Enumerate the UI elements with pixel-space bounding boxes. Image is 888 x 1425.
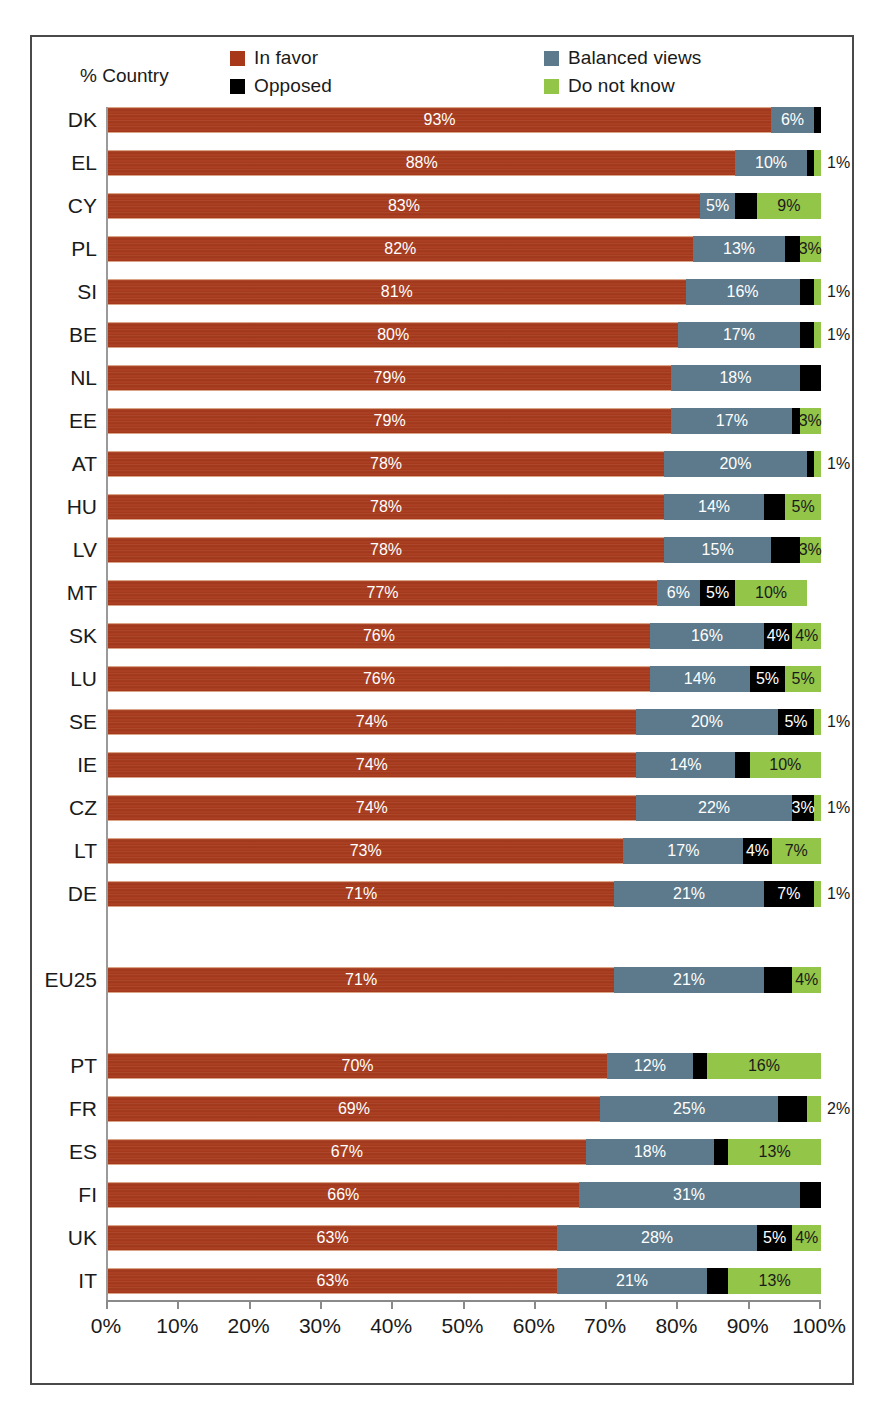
segment-value-balanced-views: 31% bbox=[673, 1186, 705, 1204]
outside-value-label: 2% bbox=[827, 1096, 850, 1122]
segment-value-do-not-know: 16% bbox=[748, 1057, 780, 1075]
segment-opposed bbox=[792, 408, 799, 434]
segment-balanced-views: 16% bbox=[686, 279, 800, 305]
segment-do-not-know bbox=[814, 881, 821, 907]
x-tick bbox=[748, 1300, 750, 1309]
row-label-lt: LT bbox=[74, 838, 97, 864]
legend-swatch-balanced-views bbox=[544, 51, 559, 66]
segment-value-balanced-views: 20% bbox=[719, 455, 751, 473]
x-tick-label: 20% bbox=[228, 1314, 270, 1338]
segment-in-favor: 66% bbox=[108, 1182, 579, 1208]
segment-value-do-not-know: 3% bbox=[799, 240, 822, 258]
segment-balanced-views: 31% bbox=[579, 1182, 800, 1208]
row-label-ie: IE bbox=[77, 752, 97, 778]
x-tick-label: 60% bbox=[513, 1314, 555, 1338]
segment-value-balanced-views: 17% bbox=[723, 326, 755, 344]
segment-do-not-know: 9% bbox=[757, 193, 821, 219]
segment-opposed: 3% bbox=[792, 795, 813, 821]
segment-value-do-not-know: 3% bbox=[799, 541, 822, 559]
segment-in-favor: 83% bbox=[108, 193, 700, 219]
segment-in-favor: 88% bbox=[108, 150, 735, 176]
row-label-cy: CY bbox=[68, 193, 97, 219]
segment-in-favor: 69% bbox=[108, 1096, 600, 1122]
segment-value-balanced-views: 18% bbox=[719, 369, 751, 387]
stacked-bar: 81%16%1% bbox=[108, 279, 821, 305]
segment-do-not-know bbox=[814, 279, 821, 305]
x-tick bbox=[676, 1300, 678, 1309]
segment-value-balanced-views: 5% bbox=[706, 197, 729, 215]
segment-value-in-favor: 81% bbox=[381, 283, 413, 301]
segment-opposed bbox=[807, 150, 814, 176]
segment-balanced-views: 12% bbox=[607, 1053, 693, 1079]
segment-in-favor: 76% bbox=[108, 666, 650, 692]
segment-opposed bbox=[735, 193, 756, 219]
segment-value-in-favor: 71% bbox=[345, 885, 377, 903]
segment-value-opposed: 5% bbox=[763, 1229, 786, 1247]
segment-value-in-favor: 63% bbox=[317, 1272, 349, 1290]
x-tick-label: 10% bbox=[156, 1314, 198, 1338]
segment-do-not-know: 5% bbox=[785, 494, 821, 520]
segment-balanced-views: 14% bbox=[636, 752, 736, 778]
segment-value-balanced-views: 12% bbox=[634, 1057, 666, 1075]
segment-balanced-views: 18% bbox=[671, 365, 799, 391]
segment-do-not-know: 3% bbox=[800, 537, 821, 563]
row-label-cz: CZ bbox=[69, 795, 97, 821]
segment-value-do-not-know: 4% bbox=[795, 627, 818, 645]
segment-value-in-favor: 80% bbox=[377, 326, 409, 344]
segment-balanced-views: 21% bbox=[614, 967, 764, 993]
stacked-bar: 78%15%3% bbox=[108, 537, 821, 563]
x-tick bbox=[249, 1300, 251, 1309]
segment-value-balanced-views: 15% bbox=[702, 541, 734, 559]
legend-swatch-opposed bbox=[230, 79, 245, 94]
segment-value-balanced-views: 6% bbox=[667, 584, 690, 602]
axis-caption: % Country bbox=[80, 65, 169, 87]
legend-item-do-not-know: Do not know bbox=[544, 75, 675, 97]
legend-label-opposed: Opposed bbox=[254, 75, 332, 97]
segment-opposed bbox=[814, 107, 821, 133]
row-label-es: ES bbox=[69, 1139, 97, 1165]
stacked-bar: 88%10%1% bbox=[108, 150, 821, 176]
segment-in-favor: 74% bbox=[108, 752, 636, 778]
row-label-hu: HU bbox=[67, 494, 97, 520]
segment-opposed bbox=[764, 494, 785, 520]
segment-value-do-not-know: 13% bbox=[759, 1143, 791, 1161]
segment-opposed bbox=[707, 1268, 728, 1294]
segment-opposed: 4% bbox=[764, 623, 793, 649]
segment-value-balanced-views: 25% bbox=[673, 1100, 705, 1118]
segment-do-not-know: 4% bbox=[792, 967, 821, 993]
segment-do-not-know bbox=[807, 1096, 821, 1122]
plot-area: DK93%6%EL88%10%1%CY83%5%9%PL82%13%3%SI81… bbox=[106, 107, 819, 1317]
segment-in-favor: 71% bbox=[108, 881, 614, 907]
segment-opposed: 5% bbox=[778, 709, 814, 735]
segment-value-balanced-views: 13% bbox=[723, 240, 755, 258]
segment-value-in-favor: 71% bbox=[345, 971, 377, 989]
row-label-be: BE bbox=[69, 322, 97, 348]
stacked-bar: 80%17%1% bbox=[108, 322, 821, 348]
segment-opposed bbox=[714, 1139, 728, 1165]
segment-value-in-favor: 79% bbox=[374, 412, 406, 430]
segment-opposed bbox=[807, 451, 814, 477]
row-label-pl: PL bbox=[71, 236, 97, 262]
stacked-bar: 63%28%5%4% bbox=[108, 1225, 821, 1251]
segment-value-balanced-views: 18% bbox=[634, 1143, 666, 1161]
segment-opposed: 4% bbox=[743, 838, 771, 864]
segment-value-in-favor: 74% bbox=[356, 713, 388, 731]
segment-in-favor: 71% bbox=[108, 967, 614, 993]
segment-opposed bbox=[800, 279, 814, 305]
segment-in-favor: 78% bbox=[108, 451, 664, 477]
outside-value-label: 1% bbox=[827, 795, 850, 821]
segment-in-favor: 63% bbox=[108, 1268, 557, 1294]
segment-in-favor: 78% bbox=[108, 494, 664, 520]
row-label-nl: NL bbox=[70, 365, 97, 391]
segment-value-in-favor: 73% bbox=[350, 842, 382, 860]
segment-value-in-favor: 93% bbox=[424, 111, 456, 129]
segment-value-opposed: 4% bbox=[767, 627, 790, 645]
segment-value-do-not-know: 3% bbox=[799, 412, 822, 430]
segment-value-do-not-know: 4% bbox=[795, 971, 818, 989]
segment-do-not-know: 13% bbox=[728, 1139, 821, 1165]
segment-opposed: 7% bbox=[764, 881, 814, 907]
row-label-el: EL bbox=[71, 150, 97, 176]
row-label-at: AT bbox=[72, 451, 97, 477]
segment-value-balanced-views: 20% bbox=[691, 713, 723, 731]
stacked-bar: 77%6%5%10% bbox=[108, 580, 821, 606]
